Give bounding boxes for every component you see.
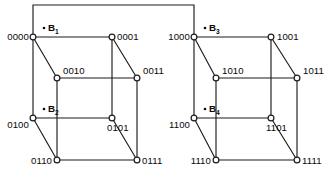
vertex-label-0001: 0001 — [117, 31, 139, 42]
vertex-label-0111: 0111 — [142, 155, 162, 166]
vertex-label-0100: 0100 — [7, 119, 29, 130]
block-label-subscript-4: 4 — [216, 109, 220, 116]
cube-vertex-0100 — [30, 115, 36, 121]
cube-vertex-1000 — [191, 34, 197, 40]
hypercube-canvas: 0000000100100011010001010110011110001001… — [0, 0, 329, 185]
block-marker-dot-B2 — [43, 108, 46, 111]
cube-vertex-0111 — [134, 157, 140, 163]
vertex-label-0000: 0000 — [7, 31, 29, 42]
cube-vertex-0101 — [109, 115, 115, 121]
cube-vertex-1101 — [268, 115, 274, 121]
vertex-label-0110: 0110 — [31, 155, 52, 166]
vertex-label-0101: 0101 — [107, 122, 129, 133]
vertex-label-0011: 0011 — [143, 65, 164, 76]
cube-vertex-0001 — [109, 34, 115, 40]
cube-vertex-0010 — [54, 75, 60, 81]
cube-vertex-1100 — [191, 115, 197, 121]
cube-vertex-1110 — [213, 157, 219, 163]
cube-vertex-1011 — [294, 75, 300, 81]
block-label-subscript-2: 2 — [55, 109, 59, 116]
block-label-subscript-1: 1 — [55, 28, 59, 35]
cube-vertex-1111 — [294, 157, 300, 163]
block-marker-dot-B3 — [204, 27, 207, 30]
block-label-subscript-3: 3 — [216, 28, 220, 35]
hypercube-figure: 0000000100100011010001010110011110001001… — [0, 0, 329, 185]
block-marker-dot-B4 — [204, 108, 207, 111]
cube-vertex-1001 — [268, 34, 274, 40]
vertex-label-1010: 1010 — [222, 65, 244, 76]
vertex-label-1011: 1011 — [303, 65, 324, 76]
cube-vertex-1010 — [213, 75, 219, 81]
cube-vertex-0000 — [30, 34, 36, 40]
cube-vertex-0110 — [54, 157, 60, 163]
vertex-label-1000: 1000 — [168, 31, 190, 42]
vertex-label-1101: 1101 — [266, 122, 287, 133]
vertex-label-1001: 1001 — [277, 31, 299, 42]
block-marker-dot-B1 — [43, 27, 46, 30]
cube-vertex-0011 — [134, 75, 140, 81]
vertex-label-0010: 0010 — [63, 65, 85, 76]
vertex-label-1110: 1110 — [191, 155, 211, 166]
vertex-label-1100: 1100 — [169, 119, 190, 130]
vertex-label-1111: 1111 — [302, 155, 322, 166]
